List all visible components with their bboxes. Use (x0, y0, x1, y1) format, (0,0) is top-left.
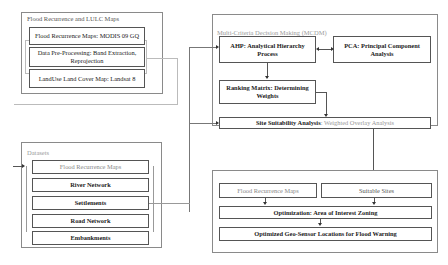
data-preprocessing-box: Data Pre-Processing: Band Extraction, Re… (29, 47, 145, 67)
weighted-overlay-label: : Weighted Overlay Analysis (321, 119, 394, 127)
site-suitability-label: Site Suitability Analysis (256, 119, 321, 127)
ranking-matrix-box: Ranking Matrix: Determining Weights (219, 80, 316, 104)
flood-recurrence-modis-box: Flood Recurrence Maps: MODIS 09 GQ (29, 27, 145, 45)
aoi-zoning-box: Optimization: Area of Interest Zoning (219, 206, 432, 219)
dataset-river-network: River Network (32, 178, 149, 192)
lulc-landsat-box: LandUse Land Cover Map: Landsat 8 (29, 69, 145, 88)
ahp-box: AHP: Analytical Hierarchy Process (219, 36, 316, 63)
dataset-flood-recurrence-maps: Flood Recurrence Maps (32, 160, 149, 174)
suitable-sites-box: Suitable Sites (321, 183, 432, 198)
dataset-road-network: Road Network (32, 214, 149, 228)
dataset-embankments: Embankments (32, 231, 149, 245)
dataset-settlements: Settlements (32, 196, 149, 210)
site-suitability-box: Site Suitability Analysis: Weighted Over… (219, 117, 431, 129)
optimized-sensor-locations-box: Optimized Geo-Sensor Locations for Flood… (219, 227, 432, 241)
mcdm-group-title: Multi-Criteria Decision Making (MCDM) (217, 29, 327, 36)
pca-box: PCA: Principal Component Analysis (333, 36, 431, 63)
opt-flood-recurrence-maps-box: Flood Recurrence Maps (219, 183, 317, 198)
datasets-group-title: Datasets (27, 149, 49, 156)
flood-lulc-group-title: Flood Recurrence and LULC Maps (27, 15, 119, 22)
